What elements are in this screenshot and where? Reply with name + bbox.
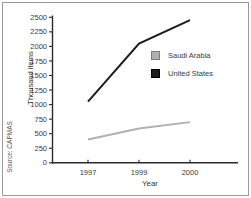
united-states-swatch-icon (151, 69, 160, 78)
svg-text:500: 500 (34, 129, 47, 138)
svg-text:2500: 2500 (30, 13, 47, 22)
svg-text:2000: 2000 (30, 42, 47, 51)
svg-text:1997: 1997 (80, 168, 97, 177)
svg-text:1750: 1750 (30, 57, 47, 66)
svg-text:1250: 1250 (30, 86, 47, 95)
svg-text:250: 250 (34, 144, 47, 153)
svg-text:2250: 2250 (30, 27, 47, 36)
svg-text:750: 750 (34, 115, 47, 124)
svg-text:2000: 2000 (182, 168, 199, 177)
line-chart-plot: 0250500750100012501500175020002250250019… (0, 0, 251, 198)
chart-figure: Source: CAPMAS Thousand items 0250500750… (0, 0, 251, 198)
svg-text:1500: 1500 (30, 71, 47, 80)
svg-text:1999: 1999 (131, 168, 148, 177)
chart-legend: Saudi Arabia United States (151, 46, 213, 82)
x-axis-label: Year (142, 179, 158, 188)
saudi-arabia-swatch-icon (151, 51, 160, 60)
legend-label: United States (168, 69, 213, 78)
legend-label: Saudi Arabia (168, 51, 211, 60)
legend-item-saudi-arabia: Saudi Arabia (151, 46, 213, 64)
svg-text:0: 0 (43, 158, 47, 167)
svg-text:1000: 1000 (30, 100, 47, 109)
legend-item-united-states: United States (151, 64, 213, 82)
